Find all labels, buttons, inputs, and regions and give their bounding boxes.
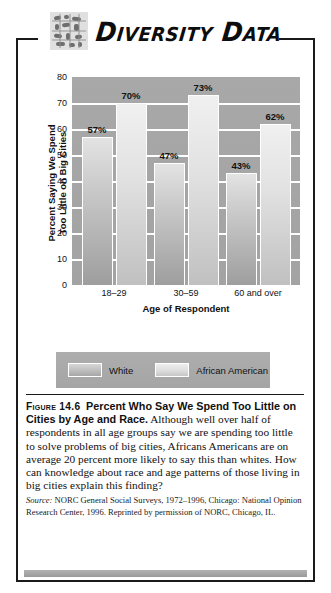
diversity-grid-icon	[50, 12, 88, 50]
frame-right	[313, 38, 315, 581]
bar-chart: Percent Saying We Spend Too Little on Bi…	[24, 72, 306, 324]
caption-body: Figure 14.6 Percent Who Say We Spend Too…	[26, 400, 304, 492]
bar-value-label: 62%	[265, 111, 284, 122]
bar-group: 43%62%	[222, 77, 294, 285]
caption-divider	[26, 394, 304, 395]
diversity-data-figure: Diversity Data Percent Saying We Spend T…	[0, 0, 331, 593]
chart-legend: White African American	[56, 352, 270, 388]
bar[interactable]: 70%	[116, 103, 147, 285]
legend-swatch-african-american	[155, 363, 189, 377]
bar-value-label: 43%	[231, 160, 250, 171]
legend-label-african-american: African American	[196, 365, 268, 376]
y-axis-ticks: 1020304050607080	[44, 77, 70, 285]
caption-source-label: Source:	[26, 495, 52, 505]
bar[interactable]: 62%	[260, 124, 291, 285]
x-axis-category: 60 and over	[222, 288, 294, 298]
y-axis-tick-40: 40	[57, 176, 67, 186]
plot-area: 57%70%47%73%43%62%	[72, 77, 300, 285]
figure-caption: Figure 14.6 Percent Who Say We Spend Too…	[26, 400, 304, 518]
bottom-accent-bar	[24, 570, 307, 577]
frame-bottom	[16, 580, 315, 582]
bar-value-label: 73%	[193, 82, 212, 93]
legend-swatch-white	[68, 363, 102, 377]
bar[interactable]: 47%	[154, 163, 185, 285]
y-axis-tick-10: 10	[57, 254, 67, 264]
y-axis-tick-20: 20	[57, 228, 67, 238]
header-banner: Diversity Data	[0, 8, 331, 54]
legend-item-african-american: African American	[155, 363, 268, 377]
y-axis-tick-70: 70	[57, 98, 67, 108]
x-axis-category: 18–29	[78, 288, 150, 298]
bar-group: 57%70%	[78, 77, 150, 285]
bar-value-label: 57%	[87, 124, 106, 135]
x-axis-label: Age of Respondent	[72, 303, 300, 314]
y-axis-tick-zero: 0	[44, 280, 70, 290]
legend-item-white: White	[68, 363, 133, 377]
x-axis-category: 30–59	[150, 288, 222, 298]
caption-source-text: NORC General Social Surveys, 1972–1996, …	[26, 495, 302, 516]
caption-source: Source: NORC General Social Surveys, 197…	[26, 495, 304, 518]
bar-group: 47%73%	[150, 77, 222, 285]
bar[interactable]: 73%	[188, 95, 219, 285]
y-axis-tick-50: 50	[57, 150, 67, 160]
page-title: Diversity Data	[94, 16, 283, 47]
legend-label-white: White	[109, 365, 133, 376]
bar[interactable]: 57%	[82, 137, 113, 285]
bar-value-label: 70%	[121, 90, 140, 101]
x-axis-categories: 18–2930–5960 and over	[72, 288, 300, 298]
y-axis-tick-60: 60	[57, 124, 67, 134]
bar[interactable]: 43%	[226, 173, 257, 285]
bar-groups: 57%70%47%73%43%62%	[72, 77, 300, 285]
caption-figure-number: Figure 14.6	[26, 401, 80, 412]
y-axis-tick-80: 80	[57, 72, 67, 82]
bar-value-label: 47%	[159, 150, 178, 161]
y-axis-tick-30: 30	[57, 202, 67, 212]
frame-left	[16, 38, 18, 581]
